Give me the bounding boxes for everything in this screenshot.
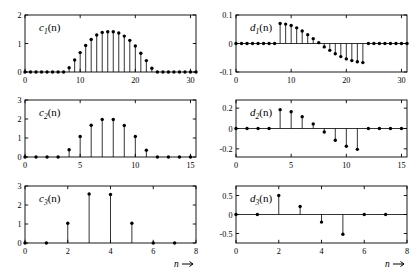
panel-label: c1(n) — [39, 21, 61, 36]
panel-label: d2(n) — [250, 106, 272, 121]
stem-marker — [389, 42, 392, 45]
y-tick-label: 0 — [17, 68, 21, 77]
stem-marker — [389, 127, 392, 130]
stem-marker — [139, 51, 142, 54]
x-tick-label: 10 — [131, 161, 139, 170]
x-tick-label: 0 — [234, 247, 238, 256]
y-tick-label: 1 — [17, 134, 21, 143]
stem-marker — [245, 42, 248, 45]
x-tick-label: 8 — [405, 247, 409, 256]
stem-marker — [289, 110, 292, 113]
stem-marker — [277, 194, 280, 197]
x-tick-label: 5 — [289, 161, 293, 170]
x-tick-label: 0 — [234, 76, 238, 85]
stem-marker — [234, 127, 237, 130]
stem-marker — [183, 70, 186, 73]
y-tick-label: 0 — [17, 153, 21, 162]
x-tick-label: 15 — [186, 161, 194, 170]
x-tick-label: 8 — [194, 247, 198, 256]
x-tick-label: 10 — [76, 76, 84, 85]
stem-marker — [189, 155, 192, 158]
stem-marker — [273, 42, 276, 45]
stem-marker — [173, 241, 176, 244]
x-tick-label: 6 — [362, 247, 366, 256]
stem-marker — [194, 70, 197, 73]
stem-marker — [251, 42, 254, 45]
stem-marker — [123, 124, 126, 127]
stem-marker — [45, 241, 48, 244]
stem-marker — [356, 60, 359, 63]
stem-marker — [323, 45, 326, 48]
stem-marker — [400, 127, 403, 130]
stem-marker — [361, 61, 364, 64]
y-tick-label: 0.5 — [222, 192, 232, 201]
y-tick-label: 0.1 — [222, 11, 232, 20]
stem-marker — [134, 135, 137, 138]
stem-marker — [112, 118, 115, 121]
stem-marker — [134, 44, 137, 47]
stem-marker — [256, 213, 259, 216]
x-tick-label: 10 — [342, 161, 350, 170]
x-tick-label: 30 — [186, 76, 194, 85]
stem-plot-d1: 0102030-0.100.1d1(n) — [211, 1, 417, 98]
stem-plot-d2: 051015-0.200.2d2(n) — [211, 86, 417, 183]
stem-marker — [23, 241, 26, 244]
stem-marker — [328, 49, 331, 52]
stem-marker — [262, 42, 265, 45]
stem-marker — [341, 233, 344, 236]
stem-marker — [384, 213, 387, 216]
x-tick-label: 15 — [397, 161, 405, 170]
stem-marker — [234, 213, 237, 216]
stem-marker — [172, 70, 175, 73]
y-tick-label: 2 — [17, 11, 21, 20]
stem-marker — [372, 42, 375, 45]
y-tick-label: 3 — [17, 96, 21, 105]
wavelet-coefficients-figure: 0102030012c1(n)0510150123c2(n)024680123c… — [0, 0, 417, 267]
y-tick-label: 0.2 — [222, 104, 232, 113]
stem-marker — [289, 24, 292, 27]
stem-marker — [320, 220, 323, 223]
stem-marker — [278, 22, 281, 25]
x-tick-label: 0 — [23, 76, 27, 85]
stem-marker — [145, 148, 148, 151]
stem-marker — [334, 52, 337, 55]
stem-marker — [267, 127, 270, 130]
stem-marker — [245, 127, 248, 130]
y-tick-label: 2 — [17, 115, 21, 124]
stem-marker — [89, 124, 92, 127]
stem-marker — [367, 42, 370, 45]
stem-marker — [152, 241, 155, 244]
x-tick-label: 2 — [66, 247, 70, 256]
stem-marker — [106, 30, 109, 33]
stem-marker — [23, 70, 26, 73]
stem-marker — [67, 148, 70, 151]
x-axis-arrow-icon — [182, 262, 193, 267]
x-tick-label: 0 — [23, 247, 27, 256]
stem-marker — [284, 22, 287, 25]
stem-marker — [130, 222, 133, 225]
x-axis-arrow-icon — [393, 262, 404, 267]
stem-marker — [278, 108, 281, 111]
stem-marker — [117, 31, 120, 34]
panel-label: c2(n) — [39, 106, 61, 121]
stem-marker — [45, 70, 48, 73]
stem-marker — [95, 33, 98, 36]
stem-marker — [378, 127, 381, 130]
x-tick-label: 4 — [108, 247, 112, 256]
stem-marker — [317, 41, 320, 44]
stem-marker — [56, 70, 59, 73]
y-tick-label: 0 — [228, 125, 232, 134]
stem-marker — [334, 139, 337, 142]
panel-label: d1(n) — [250, 21, 272, 36]
stem-marker — [67, 66, 70, 69]
stem-marker — [101, 31, 104, 34]
stem-marker — [240, 42, 243, 45]
x-tick-label: 2 — [277, 247, 281, 256]
stem-marker — [156, 155, 159, 158]
stem-marker — [101, 118, 104, 121]
stem-marker — [23, 155, 26, 158]
stem-marker — [123, 34, 126, 37]
y-tick-label: 0 — [228, 40, 232, 49]
stem-marker — [167, 155, 170, 158]
stem-marker — [256, 127, 259, 130]
